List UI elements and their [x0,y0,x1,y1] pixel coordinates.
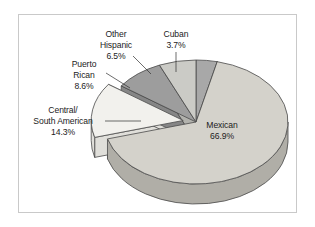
svg-text:South American: South American [33,116,93,126]
svg-text:Central/: Central/ [48,105,78,115]
pie-chart-figure: Other Hispanic 6.5% Cuban 3.7% Puerto Ri… [0,0,315,227]
svg-text:8.6%: 8.6% [74,81,94,91]
slice-label-puerto-rican: Puerto Rican 8.6% [72,59,97,91]
slice-label-mexican: Mexican 66.9% [206,120,238,141]
svg-text:Hispanic: Hispanic [100,40,133,50]
svg-text:Mexican: Mexican [206,120,238,130]
svg-text:14.3%: 14.3% [51,127,75,137]
svg-text:Puerto: Puerto [72,59,97,69]
svg-text:Cuban: Cuban [164,29,189,39]
svg-text:3.7%: 3.7% [166,40,186,50]
svg-text:6.5%: 6.5% [106,51,126,61]
slice-label-cuban: Cuban 3.7% [164,29,189,50]
svg-text:Other: Other [106,29,127,39]
svg-text:66.9%: 66.9% [210,131,234,141]
svg-text:Rican: Rican [73,70,95,80]
